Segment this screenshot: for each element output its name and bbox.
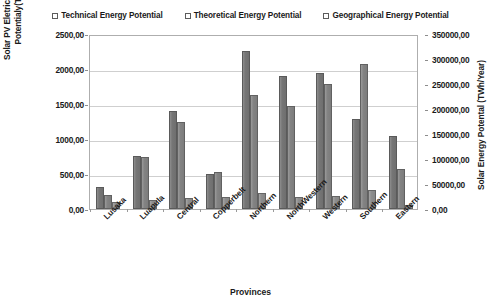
bar-southern-series-1[interactable] [360, 64, 368, 209]
legend-item-theoretical-energy-potential[interactable]: Theoretical Energy Potential [185, 11, 302, 20]
bar-northwestern-series-1[interactable] [287, 106, 295, 209]
y-tick-right-2: 100000,00 [432, 155, 469, 165]
legend-label-series-1: Theoretical Energy Potential [194, 11, 302, 20]
bar-northern-series-1[interactable] [250, 95, 258, 209]
y-tick-mark-right-1 [425, 185, 428, 186]
bar-northern-series-0[interactable] [242, 51, 250, 209]
y-tick-right-3: 150000,00 [432, 130, 469, 140]
bar-group [127, 34, 164, 209]
y-tick-left-4: 2000,00 [55, 65, 84, 75]
bar-central-series-0[interactable] [169, 111, 177, 209]
legend-swatch-icon-series-2 [323, 13, 329, 19]
y-tick-mark-left-4 [85, 70, 88, 71]
bar-luapula-series-1[interactable] [141, 157, 149, 209]
solar-energy-potential-chart: Technical Energy Potential Theoretical E… [0, 0, 501, 307]
bar-northwestern-series-0[interactable] [279, 76, 287, 209]
bar-group [382, 34, 419, 209]
x-axis-category-labels: LusakaLuapulaCentralCopperbeltNorthernNo… [89, 211, 418, 281]
bar-central-series-1[interactable] [177, 122, 185, 209]
bar-lusaka-series-0[interactable] [96, 187, 104, 209]
y-tick-right-7: 350000,00 [432, 30, 469, 40]
y-tick-left-0: 0,00 [69, 205, 84, 215]
bar-western-series-1[interactable] [324, 84, 332, 209]
bar-group [346, 34, 383, 209]
bar-group [273, 34, 310, 209]
bar-group [163, 34, 200, 209]
y-tick-right-5: 250000,00 [432, 80, 469, 90]
bar-group [236, 34, 273, 209]
y-tick-mark-right-0 [425, 210, 428, 211]
y-tick-left-1: 500,00 [60, 170, 84, 180]
y-tick-mark-right-7 [425, 35, 428, 36]
y-tick-mark-left-1 [85, 175, 88, 176]
y-tick-right-1: 50000,00 [432, 180, 465, 190]
bar-group [90, 34, 127, 209]
y-tick-mark-right-3 [425, 135, 428, 136]
y-tick-right-0: 0,00 [432, 205, 447, 215]
y-tick-right-4: 200000,00 [432, 105, 469, 115]
legend-swatch-icon-series-1 [185, 13, 191, 19]
y-tick-mark-right-4 [425, 110, 428, 111]
bar-eastern-series-1[interactable] [397, 169, 405, 209]
y-tick-mark-right-2 [425, 160, 428, 161]
y-tick-mark-right-5 [425, 85, 428, 86]
bar-group [200, 34, 237, 209]
plot-area [89, 35, 418, 210]
bar-southern-series-0[interactable] [352, 119, 360, 209]
y-tick-mark-right-6 [425, 60, 428, 61]
y-tick-left-3: 1500,00 [55, 100, 84, 110]
bar-copperbelt-series-0[interactable] [206, 174, 214, 209]
y-axis-left-ticks: 0,00500,001000,001500,002000,002500,00 [18, 0, 84, 307]
bar-luapula-series-0[interactable] [133, 156, 141, 209]
y-tick-mark-left-5 [85, 35, 88, 36]
y-tick-mark-left-2 [85, 140, 88, 141]
y-tick-right-6: 300000,00 [432, 55, 469, 65]
y-axis-right-ticks: 0,0050000,00100000,00150000,00200000,002… [424, 0, 486, 307]
y-tick-left-2: 1000,00 [55, 135, 84, 145]
y-tick-mark-left-0 [85, 210, 88, 211]
y-tick-left-5: 2500,00 [55, 30, 84, 40]
bar-eastern-series-0[interactable] [389, 136, 397, 209]
y-tick-mark-left-3 [85, 105, 88, 106]
